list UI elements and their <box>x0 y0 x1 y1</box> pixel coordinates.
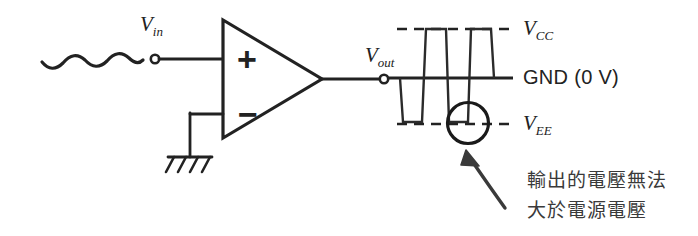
vin-subscript: in <box>153 24 163 39</box>
opamp-noninverting-plus-sign: + <box>237 42 257 76</box>
annotation-caption-line-1: 輸出的電壓無法 <box>527 171 667 190</box>
gnd-text: GND (0 V) <box>523 66 619 88</box>
vout-node-terminal <box>380 75 388 83</box>
vcc-subscript: CC <box>536 28 553 43</box>
sine-wave-source-icon <box>42 54 143 69</box>
vcc-label: VCC <box>523 18 553 42</box>
vcc-base: V <box>523 16 536 40</box>
vee-label: VEE <box>523 113 552 137</box>
ground-symbol-hatching <box>166 157 210 172</box>
circuit-diagram-figure: + − Vin Vout VCC GND (0 V) VEE 輸出的電壓無法 大… <box>0 0 698 236</box>
gnd-label: GND (0 V) <box>523 67 619 87</box>
vout-base: V <box>365 43 378 67</box>
plus-glyph: + <box>237 40 257 78</box>
vout-label: Vout <box>365 45 394 69</box>
annotation-arrow-head-icon <box>461 150 479 166</box>
vin-label: Vin <box>140 14 163 38</box>
minus-glyph: − <box>238 95 258 133</box>
opamp-inverting-minus-sign: − <box>238 97 258 131</box>
annotation-arrow-curve <box>472 161 505 208</box>
annotation-text-1: 輸出的電壓無法 <box>527 169 667 191</box>
vin-base: V <box>140 12 153 36</box>
annotation-caption-line-2: 大於電源電壓 <box>527 201 647 220</box>
vee-base: V <box>523 111 536 135</box>
vout-subscript: out <box>378 55 395 70</box>
annotation-text-2: 大於電源電壓 <box>527 199 647 221</box>
vee-subscript: EE <box>536 123 552 138</box>
